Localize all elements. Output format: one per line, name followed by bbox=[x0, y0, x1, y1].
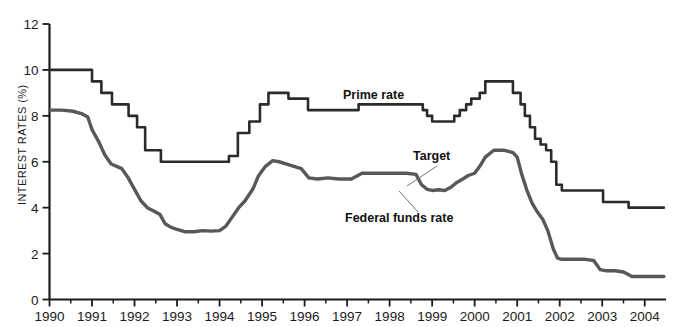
y-tick-label: 12 bbox=[23, 17, 38, 32]
interest-rates-figure: 024681012 199019911992199319941995199619… bbox=[0, 0, 674, 327]
x-tick-label: 2001 bbox=[502, 309, 532, 324]
y-tick-label: 4 bbox=[31, 201, 39, 216]
y-axis-title: INTEREST RATES (%) bbox=[16, 85, 28, 205]
x-axis-tick-labels: 1990199119921993199419951996199719981999… bbox=[34, 309, 660, 324]
x-tick-label: 1992 bbox=[120, 309, 150, 324]
x-tick-label: 1996 bbox=[290, 309, 320, 324]
plot-background bbox=[0, 0, 674, 327]
y-tick-label: 8 bbox=[31, 109, 39, 124]
target-label: Target bbox=[413, 149, 451, 163]
x-tick-label: 1990 bbox=[34, 309, 64, 324]
y-tick-label: 10 bbox=[23, 63, 38, 78]
x-tick-label: 1997 bbox=[332, 309, 362, 324]
federal-funds-rate-label: Federal funds rate bbox=[345, 211, 453, 225]
y-tick-label: 0 bbox=[31, 293, 39, 308]
x-tick-label: 1998 bbox=[375, 309, 405, 324]
x-tick-label: 2000 bbox=[460, 309, 490, 324]
x-tick-label: 1993 bbox=[162, 309, 192, 324]
y-tick-label: 6 bbox=[31, 155, 39, 170]
interest-rates-line-chart: 024681012 199019911992199319941995199619… bbox=[0, 0, 674, 327]
y-tick-label: 2 bbox=[31, 247, 39, 262]
x-tick-label: 2002 bbox=[545, 309, 575, 324]
x-tick-label: 2003 bbox=[587, 309, 617, 324]
x-tick-label: 1991 bbox=[77, 309, 107, 324]
x-tick-label: 1999 bbox=[417, 309, 447, 324]
x-tick-label: 1995 bbox=[247, 309, 277, 324]
prime-rate-label: Prime rate bbox=[343, 88, 404, 102]
x-tick-label: 2004 bbox=[630, 309, 661, 324]
y-axis-title-text: INTEREST RATES (%) bbox=[16, 85, 28, 205]
x-tick-label: 1994 bbox=[205, 309, 236, 324]
